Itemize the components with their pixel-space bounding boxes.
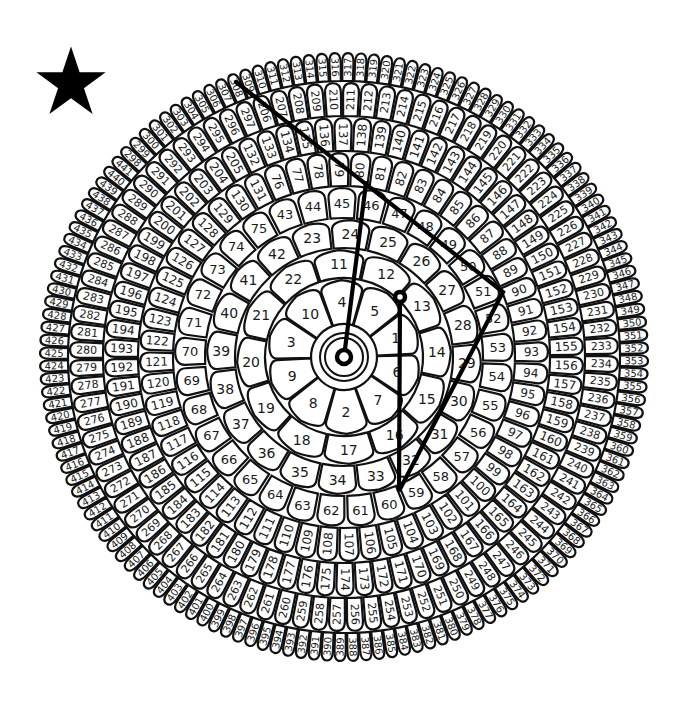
- cell-number: 315: [316, 58, 328, 78]
- cell-number: 36: [258, 445, 276, 461]
- cell-number: 68: [191, 402, 208, 417]
- cell-number: 279: [76, 361, 98, 375]
- cell-number: 93: [524, 345, 540, 359]
- cell-number: 23: [303, 230, 321, 246]
- cell-number: 42: [268, 246, 286, 262]
- cell-number: 318: [354, 58, 366, 78]
- cell-number: 156: [555, 358, 578, 373]
- cell-number: 55: [482, 398, 499, 413]
- cell-number: 74: [228, 239, 245, 254]
- cell-number: 20: [242, 354, 260, 370]
- cell-number: 63: [294, 498, 311, 513]
- cell-number: 234: [591, 357, 612, 371]
- cell-number: 30: [450, 393, 468, 409]
- cell-number: 15: [418, 391, 436, 407]
- cell-number: 43: [277, 207, 294, 222]
- cell-number: 235: [589, 374, 611, 389]
- cell-number: 57: [453, 449, 470, 464]
- cell-number: 69: [184, 373, 201, 388]
- cell-number: 427: [45, 322, 65, 335]
- cell-number: 351: [623, 329, 643, 341]
- cell-number: 94: [523, 365, 539, 380]
- cell-number: 53: [489, 340, 506, 355]
- cell-number: 389: [335, 637, 346, 656]
- cell-number: 316: [329, 57, 341, 76]
- cell-number: 107: [342, 533, 357, 556]
- cell-number: 280: [76, 343, 97, 357]
- cell-number: 75: [251, 221, 268, 236]
- cell-number: 33: [367, 468, 385, 484]
- cell-number: 350: [622, 316, 642, 329]
- cell-number: 211: [344, 89, 358, 110]
- cell-number: 209: [308, 90, 323, 112]
- cell-number: 352: [624, 342, 643, 354]
- cell-number: 258: [312, 602, 327, 624]
- cell-number: 35: [291, 464, 309, 480]
- cell-number: 54: [488, 369, 505, 384]
- cell-number: 11: [330, 256, 348, 272]
- cell-number: 14: [428, 344, 446, 360]
- cell-number: 122: [145, 333, 169, 349]
- cell-number: 423: [45, 372, 65, 384]
- cell-number: 281: [77, 325, 99, 340]
- cell-number: 192: [110, 360, 134, 375]
- cell-number: 353: [624, 355, 643, 366]
- cell-number: 45: [334, 196, 351, 211]
- cell-number: 121: [145, 355, 168, 370]
- cell-number: 27: [438, 282, 456, 298]
- cell-number: 78: [310, 163, 326, 180]
- cell-number: 60: [381, 497, 398, 512]
- cell-number: 191: [111, 378, 136, 395]
- cell-number: 137: [336, 123, 350, 146]
- cell-number: 174: [338, 568, 352, 591]
- cell-number: 34: [329, 472, 347, 488]
- cell-number: 22: [284, 271, 302, 287]
- cell-number: 319: [367, 58, 380, 78]
- cell-number: 354: [624, 367, 644, 379]
- cell-number: 314: [303, 59, 316, 79]
- cell-number: 391: [309, 635, 322, 655]
- cell-number: 7: [373, 392, 382, 408]
- cell-number: 255: [365, 602, 380, 624]
- cell-number: 173: [356, 567, 372, 591]
- cell-number: 388: [347, 637, 359, 656]
- cell-number: 26: [412, 253, 430, 269]
- cell-number: 386: [372, 635, 385, 655]
- cell-number: 59: [408, 485, 425, 500]
- cell-number: 424: [44, 360, 63, 372]
- cell-number: 210: [326, 89, 340, 111]
- cell-number: 81: [373, 164, 390, 182]
- cell-number: 58: [432, 469, 449, 484]
- cell-number: 4: [338, 294, 347, 310]
- cell-number: 10: [301, 306, 319, 322]
- cell-number: 138: [354, 123, 370, 147]
- cell-number: 38: [216, 381, 234, 397]
- cell-number: 65: [242, 472, 259, 487]
- cell-number: 2: [341, 404, 350, 420]
- cell-number: 51: [475, 284, 492, 299]
- cell-number: 425: [44, 348, 63, 359]
- cell-number: 426: [45, 335, 65, 347]
- cell-number: 18: [293, 432, 311, 448]
- cell-number: 41: [239, 272, 257, 288]
- cell-number: 28: [454, 317, 472, 333]
- cell-number: 136: [316, 123, 332, 147]
- center-start-marker: [337, 350, 351, 364]
- cell-number: 95: [519, 386, 537, 403]
- cell-number: 92: [521, 323, 538, 339]
- cell-number: 25: [379, 234, 397, 250]
- cell-number: 64: [267, 487, 284, 502]
- cell-number: 387: [359, 636, 371, 656]
- cell-number: 73: [209, 262, 226, 277]
- cell-number: 39: [212, 343, 230, 359]
- dot-27-marker: [395, 292, 405, 302]
- dot-to-dot-puzzle: 4516728931011121314151617181920212223242…: [0, 0, 683, 714]
- cell-number: 67: [203, 428, 220, 443]
- cell-number: 155: [554, 339, 578, 354]
- cell-number: 12: [377, 266, 395, 282]
- cell-number: 17: [340, 442, 358, 458]
- cell-number: 5: [370, 303, 379, 319]
- cell-number: 232: [589, 321, 611, 336]
- cell-number: 71: [186, 315, 203, 330]
- cell-number: 108: [320, 532, 336, 556]
